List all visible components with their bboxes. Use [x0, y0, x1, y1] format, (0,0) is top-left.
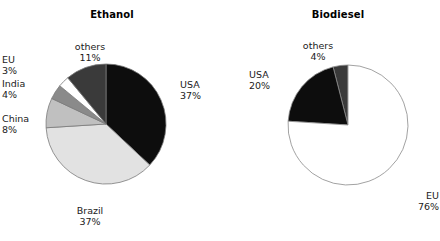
biodiesel-label-others-pct: 4% [290, 51, 346, 62]
biodiesel-pie-svg [220, 0, 440, 241]
biodiesel-label-eu-pct: 76% [411, 201, 439, 212]
biodiesel-label-usa-name: USA [249, 69, 269, 80]
ethanol-label-others-name: others [75, 41, 105, 52]
ethanol-label-eu-name: EU [2, 54, 15, 65]
biodiesel-pie-panel: Biodiesel [220, 0, 440, 241]
ethanol-label-eu-pct: 3% [2, 65, 44, 76]
biodiesel-label-usa: USA 20% [249, 69, 291, 91]
ethanol-label-usa-pct: 37% [180, 90, 201, 101]
biodiesel-label-eu-name: EU [426, 190, 439, 201]
ethanol-label-eu: EU 3% [2, 54, 44, 76]
ethanol-label-india: India 4% [2, 78, 44, 100]
biodiesel-label-others: others 4% [290, 40, 346, 62]
biodiesel-label-usa-pct: 20% [249, 80, 291, 91]
ethanol-pie-panel: Ethanol USA 37% Brazil 37% China 8% Indi… [0, 0, 220, 241]
ethanol-label-brazil-name: Brazil [77, 205, 104, 216]
biodiesel-label-others-name: others [303, 40, 333, 51]
ethanol-label-china-pct: 8% [2, 124, 44, 135]
ethanol-label-others: others 11% [60, 41, 120, 63]
two-pie-chart-figure: Ethanol USA 37% Brazil 37% China 8% Indi… [0, 0, 440, 241]
biodiesel-label-eu: EU 76% [411, 190, 439, 212]
ethanol-label-brazil-pct: 37% [62, 216, 118, 227]
ethanol-label-india-pct: 4% [2, 89, 44, 100]
ethanol-label-others-pct: 11% [60, 52, 120, 63]
ethanol-label-china: China 8% [2, 113, 44, 135]
ethanol-label-india-name: India [2, 78, 25, 89]
ethanol-label-usa-name: USA [180, 79, 200, 90]
ethanol-label-usa: USA 37% [180, 79, 201, 101]
ethanol-label-china-name: China [2, 113, 29, 124]
ethanol-label-brazil: Brazil 37% [62, 205, 118, 227]
